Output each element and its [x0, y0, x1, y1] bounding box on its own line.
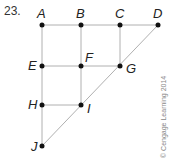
label-g: G — [126, 61, 136, 76]
vertex-j — [40, 144, 45, 149]
vertex-e — [40, 64, 45, 69]
label-c: C — [115, 6, 125, 21]
label-h: H — [28, 97, 38, 112]
vertex-f — [79, 64, 84, 69]
label-d: D — [153, 6, 162, 21]
label-j: J — [30, 139, 38, 154]
vertex-a — [40, 23, 45, 28]
label-e: E — [28, 58, 37, 73]
edge-j-d — [42, 25, 158, 146]
label-i: I — [87, 101, 91, 116]
vertex-b — [79, 23, 84, 28]
graph-diagram: A B C D E F G H I J — [0, 0, 177, 161]
label-b: B — [76, 6, 85, 21]
vertex-g — [118, 64, 123, 69]
vertex-h — [40, 103, 45, 108]
label-f: F — [85, 50, 94, 65]
vertex-c — [118, 23, 123, 28]
label-a: A — [36, 6, 46, 21]
vertex-d — [156, 23, 161, 28]
copyright-notice: © Cengage Learning 2014 — [160, 76, 167, 158]
labels: A B C D E F G H I J — [28, 6, 162, 154]
vertex-i — [79, 103, 84, 108]
edges — [42, 25, 158, 146]
